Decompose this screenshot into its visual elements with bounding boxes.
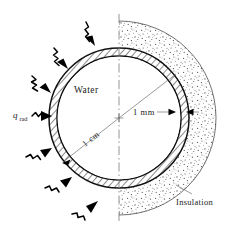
insulation-callout: Insulation <box>176 185 213 207</box>
wall-thickness-label: 1 mm <box>133 107 155 117</box>
q-rad-symbol: q <box>13 110 18 120</box>
arrowhead-6 <box>60 177 72 188</box>
arrowhead-2 <box>57 59 68 70</box>
arrowhead-7 <box>86 201 98 213</box>
figure-canvas: 1 cm 1 mm Water Insulation q rad <box>0 0 229 232</box>
radiation-arrow-5 <box>26 148 52 160</box>
arrowhead-5 <box>40 148 52 158</box>
insulation-label: Insulation <box>176 197 213 207</box>
radiation-arrow-2 <box>54 48 69 69</box>
water-label: Water <box>74 85 99 95</box>
wavy-arrow-icon <box>72 213 85 220</box>
radiation-arrow-7 <box>72 201 98 220</box>
radiation-arrow-3 <box>32 76 52 93</box>
wavy-arrow-icon <box>26 155 41 160</box>
q-rad-subscript: rad <box>20 115 29 122</box>
wavy-arrow-icon <box>32 76 38 91</box>
pipe-cross-section-figure: 1 cm 1 mm Water Insulation q rad <box>0 0 229 232</box>
radiation-arrow-1 <box>85 22 95 46</box>
radiation-flux-label: q rad <box>13 110 28 122</box>
arrowhead-1 <box>86 36 96 47</box>
wavy-arrow-icon <box>54 48 60 66</box>
arrowhead-3 <box>40 83 52 93</box>
radiation-arrow-6 <box>45 177 72 192</box>
wavy-arrow-icon <box>45 186 59 192</box>
